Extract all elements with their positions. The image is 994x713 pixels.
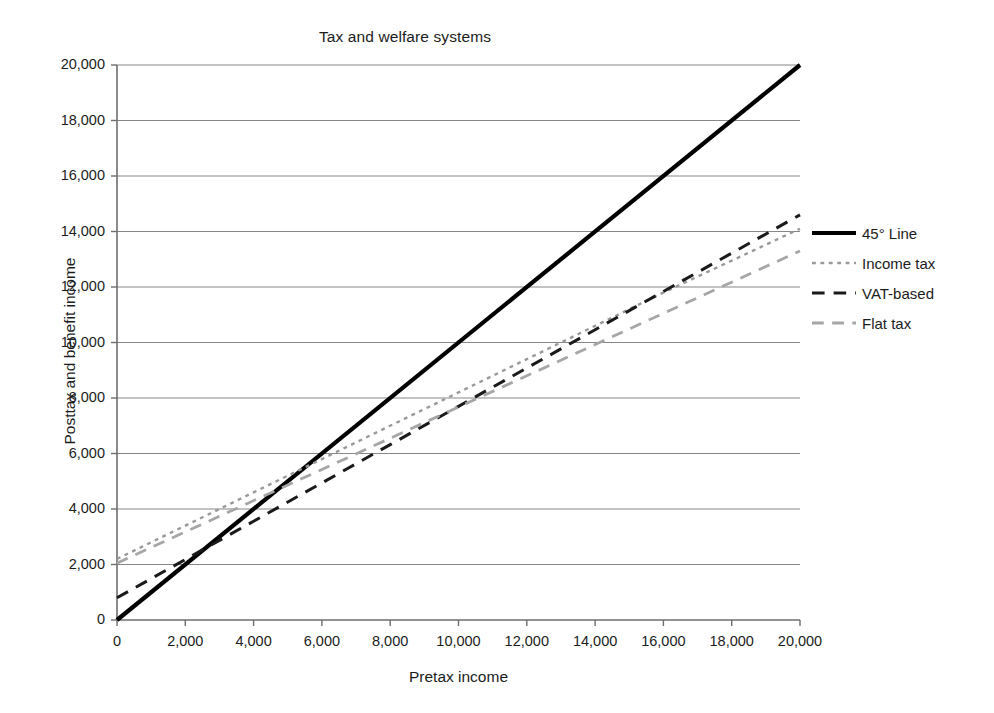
chart-legend: 45° LineIncome taxVAT-basedFlat tax — [812, 218, 935, 338]
legend-item-0[interactable]: 45° Line — [812, 218, 935, 248]
y-tick-label: 4,000 — [31, 500, 105, 516]
y-tick-label: 20,000 — [31, 56, 105, 72]
plot-area — [0, 0, 994, 713]
y-tick-label: 0 — [31, 611, 105, 627]
legend-swatch-icon — [812, 316, 856, 330]
legend-label: Income tax — [862, 255, 935, 272]
legend-label: VAT-based — [862, 285, 934, 302]
legend-label: Flat tax — [862, 315, 911, 332]
legend-item-3[interactable]: Flat tax — [812, 308, 935, 338]
chart-figure: Tax and welfare systems 02,0004,0006,000… — [0, 0, 994, 713]
y-tick-label: 16,000 — [31, 167, 105, 183]
legend-swatch-icon — [812, 226, 856, 240]
legend-item-1[interactable]: Income tax — [812, 248, 935, 278]
legend-label: 45° Line — [862, 225, 917, 242]
legend-item-2[interactable]: VAT-based — [812, 278, 935, 308]
x-axis-title: Pretax income — [117, 668, 800, 686]
x-tick-label: 20,000 — [760, 633, 840, 649]
gridlines — [117, 65, 800, 565]
y-axis-title: Posttax and benefit income — [61, 221, 79, 481]
legend-swatch-icon — [812, 286, 856, 300]
series-line-2 — [117, 215, 800, 598]
legend-swatch-icon — [812, 256, 856, 270]
y-tick-label: 2,000 — [31, 556, 105, 572]
y-tick-label: 18,000 — [31, 112, 105, 128]
